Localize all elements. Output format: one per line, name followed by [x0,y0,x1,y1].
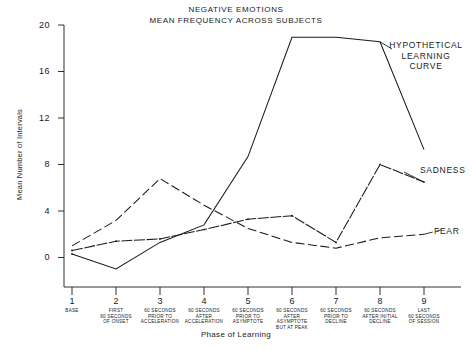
series-label-sadness: SADNESS [420,165,466,176]
series-label-hypothetical-line-2: LEARNING [382,51,470,62]
series-label-fear-text: FEAR [434,226,459,237]
series-label-hypothetical-learning-curve: HYPOTHETICAL LEARNING CURVE [382,40,470,72]
y-tick-marks [58,25,64,258]
series-label-hypothetical-line-1: HYPOTHETICAL [382,40,470,51]
x-tick-number-9: 9 [394,296,454,306]
series-line-sadness [72,165,424,251]
x-tick-desc-line: OF SESSION [392,319,456,325]
series-label-sadness-text: SADNESS [420,165,466,176]
series-label-fear: FEAR [434,226,459,237]
chart-container: NEGATIVE EMOTIONS MEAN FREQUENCY ACROSS … [0,0,472,350]
x-tick-desc-line: BUT AT PEAK [260,325,324,331]
x-tick-marks [72,287,424,295]
series-label-hypothetical-line-3: CURVE [382,61,470,72]
x-tick-desc-9: LAST60 SECONDSOF SESSION [392,308,456,325]
series-line-fear [72,179,424,249]
series-line-hypothetical-learning-curve [72,37,424,269]
